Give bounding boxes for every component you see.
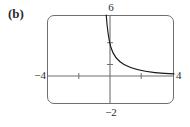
y-axis-min-label: −2 [99,106,123,118]
y-axis-max-label: 6 [104,1,118,13]
panel-label: (b) [8,6,24,22]
x-axis-max-label: 4 [176,69,188,81]
plot-canvas [47,15,174,104]
curve-path [106,15,174,74]
figure-panel: (b) 6 −2 −4 4 [0,0,190,127]
x-axis-min-label: −4 [30,69,46,81]
